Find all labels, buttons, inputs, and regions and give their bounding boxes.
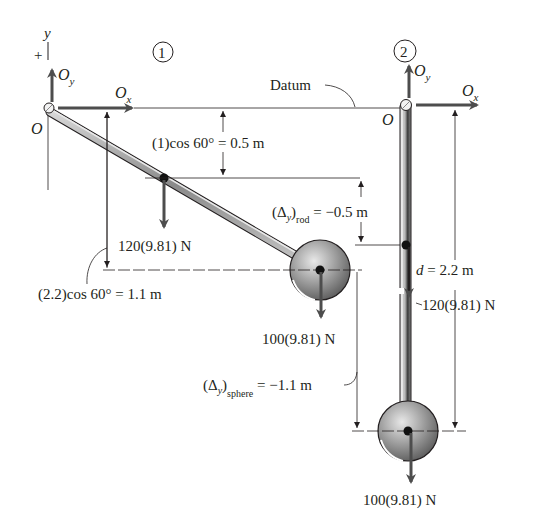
energy-diagram: y + 1 Oy Ox O 100 [0,0,539,528]
Ox-label-1: Ox [115,84,132,105]
Ox-label-2: Ox [462,82,479,103]
Oy-label-1: Oy [58,66,75,87]
sphere-2 [352,401,466,461]
positive-sign: + [34,47,42,63]
delta-rod-label: (Δy)rod = −0.5 m [272,204,368,225]
delta-sphere-leader [344,372,357,385]
y-axis-label: y [42,25,51,41]
position-2-number: 2 [400,44,408,60]
rod-weight-label-2: 120(9.81) N [422,297,495,314]
rod-weight-label-1: 120(9.81) N [118,238,191,255]
delta-sphere-label: (Δy)sphere = −1.1 m [203,377,312,399]
Oy-label-2: Oy [414,62,431,83]
pivot-label-2: O [382,111,394,128]
diagram-svg: y + 1 Oy Ox O 100 [0,0,539,528]
sphere-weight-label-2: 100(9.81) N [363,492,436,509]
rod-height-dimension-label: (1)cos 60° = 0.5 m [152,135,265,152]
datum-leader [325,85,355,107]
datum-label: Datum [270,77,311,93]
length-label: d = 2.2 m [416,262,474,278]
sphere-height-dimension-label: (2.2)cos 60° = 1.1 m [38,286,162,303]
sphere-weight-label-1: 100(9.81) N [262,331,335,348]
pivot-label-1: O [31,120,43,137]
position-1-number: 1 [158,45,166,61]
inclined-rod [50,110,300,258]
sphere-height-leader [87,248,107,284]
configuration-1: y + 1 Oy Ox O 100 [31,25,400,348]
